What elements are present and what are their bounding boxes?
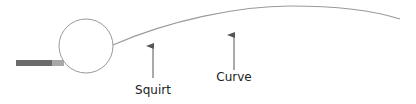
curve-label: Curve <box>216 70 251 84</box>
ball-trajectory-curve <box>113 6 400 45</box>
squirt-curve-diagram: Squirt Curve <box>0 0 416 104</box>
diagram-svg <box>0 0 416 104</box>
cue-ball <box>59 19 113 73</box>
squirt-label: Squirt <box>135 83 171 97</box>
